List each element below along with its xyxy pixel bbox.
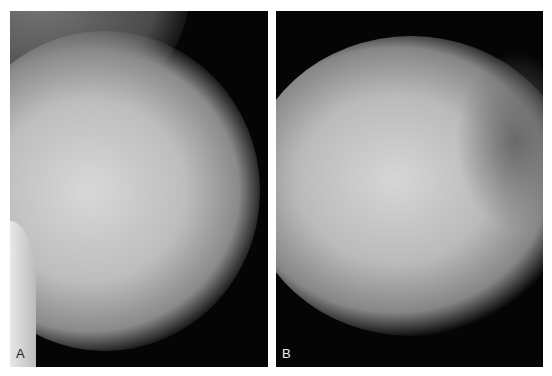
panel-label-a: A <box>16 346 25 361</box>
panel-label-b: B <box>282 346 291 361</box>
panel-a-mammogram: A <box>10 11 268 367</box>
panel-b-mammogram: B <box>276 11 543 367</box>
breast-tissue <box>10 31 260 351</box>
